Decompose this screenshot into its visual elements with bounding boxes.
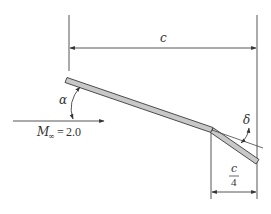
angle-of-attack-arc bbox=[71, 87, 80, 119]
mach-number-label: M ∞ = 2.0 bbox=[36, 125, 81, 141]
angle-of-attack-label: α bbox=[59, 93, 67, 107]
svg-text:c: c bbox=[231, 162, 237, 175]
plate bbox=[65, 78, 213, 133]
svg-text:4: 4 bbox=[231, 176, 237, 188]
chord-label: c bbox=[160, 31, 167, 45]
svg-text:=: = bbox=[57, 125, 64, 139]
svg-text:∞: ∞ bbox=[48, 132, 55, 141]
flap-deflection-label: δ bbox=[243, 113, 250, 127]
flap bbox=[211, 128, 260, 164]
svg-text:2.0: 2.0 bbox=[66, 125, 81, 139]
flap-chord-label: c 4 bbox=[229, 162, 239, 188]
flapped-plate-diagram: c c 4 δ M ∞ = 2.0 α bbox=[0, 0, 271, 214]
